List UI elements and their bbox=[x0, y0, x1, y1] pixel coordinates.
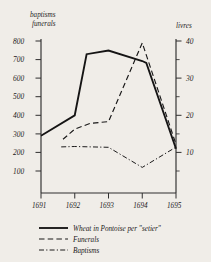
chart-figure: baptisms funerals livres 800 700 600 500… bbox=[0, 0, 211, 262]
scan-noise bbox=[0, 0, 211, 262]
